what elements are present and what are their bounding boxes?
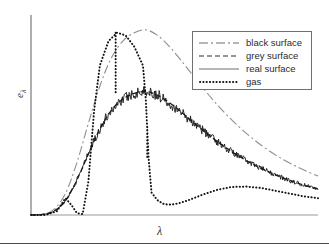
legend-label-black-surface: black surface [246, 37, 302, 49]
solid-line-sample [198, 63, 240, 75]
x-axis-label: λ [157, 225, 162, 237]
y-axis-label-subscript: λ [19, 90, 28, 93]
y-axis-label: eλ [14, 90, 28, 98]
legend-label-gas: gas [246, 76, 261, 88]
dotted-line-sample [198, 76, 240, 88]
dashed-line-sample [198, 50, 240, 62]
chart-legend: black surface grey surface real surface … [192, 31, 312, 90]
legend-item-grey-surface: grey surface [198, 49, 306, 62]
dashdot-line-sample [198, 37, 240, 49]
y-axis-label-symbol: e [13, 93, 25, 98]
legend-label-grey-surface: grey surface [246, 50, 298, 62]
legend-item-gas: gas [198, 75, 306, 88]
figure-canvas: eλ λ black surface grey surface real sur… [0, 0, 329, 248]
bottom-divider [0, 243, 329, 244]
legend-item-black-surface: black surface [198, 36, 306, 49]
legend-label-real-surface: real surface [246, 63, 296, 75]
legend-item-real-surface: real surface [198, 62, 306, 75]
curve-real-surface [31, 87, 318, 215]
